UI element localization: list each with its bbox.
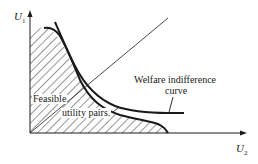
x-axis-label-main: U xyxy=(236,142,244,154)
feasible-label-line2: utility pairs. xyxy=(61,108,111,118)
welfare-diagram xyxy=(0,0,258,164)
welfare-label-line1: Welfare indifference xyxy=(133,75,217,85)
y-axis-arrow-icon xyxy=(28,10,33,17)
x-axis-label: U2 xyxy=(236,143,247,157)
welfare-label-leader xyxy=(169,97,173,112)
y-axis-label-sub: 1 xyxy=(22,17,26,25)
y-axis-label-main: U xyxy=(14,10,22,22)
x-axis-arrow-icon xyxy=(240,131,247,136)
y-axis-label: U1 xyxy=(14,11,25,25)
feasible-label-line1: Feasible xyxy=(32,94,67,104)
x-axis-label-sub: 2 xyxy=(244,149,248,157)
welfare-label-line2: curve xyxy=(165,86,187,96)
